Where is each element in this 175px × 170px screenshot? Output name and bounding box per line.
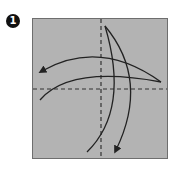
origami-diagram bbox=[0, 0, 175, 170]
